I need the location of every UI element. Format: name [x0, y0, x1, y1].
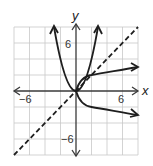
y-tick-neg-6: −6 — [61, 133, 74, 145]
x-tick-6: 6 — [118, 93, 124, 105]
y-axis-label: y — [71, 8, 80, 23]
y-tick-6: 6 — [65, 38, 71, 50]
x-axis-label: x — [141, 83, 149, 98]
function-graph: x y −6 6 6 −6 — [0, 0, 153, 166]
x-tick-neg-6: −6 — [19, 93, 32, 105]
